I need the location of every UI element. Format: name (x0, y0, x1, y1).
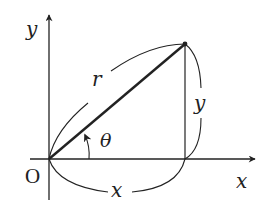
x-brace-arc-left (49, 159, 108, 192)
theta-angle-arc (85, 135, 89, 159)
x-axis-label: x (236, 169, 247, 193)
x-length-label: x (111, 178, 122, 202)
radius-line (49, 44, 185, 159)
theta-label: θ (100, 129, 112, 151)
y-brace-arc-lower (185, 118, 201, 159)
y-axis-label: y (25, 17, 38, 41)
y-brace-arc-upper (185, 44, 201, 88)
x-brace-arc-right (132, 159, 185, 192)
polar-diagram: y x r y x θ O (0, 0, 270, 222)
r-brace-arc-upper (111, 44, 185, 71)
diagram-canvas: y x r y x θ O (0, 0, 270, 222)
y-length-label: y (193, 91, 206, 115)
r-label: r (92, 67, 103, 91)
origin-label: O (25, 164, 40, 188)
